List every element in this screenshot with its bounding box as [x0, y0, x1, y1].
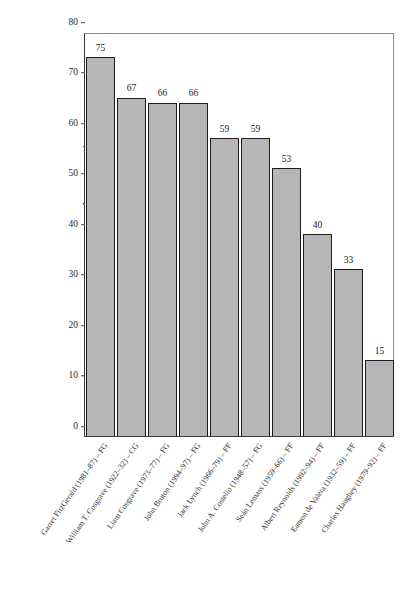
bar[interactable]: [334, 269, 363, 436]
bar[interactable]: [365, 360, 394, 436]
x-axis-category-label: Albert Reynolds (1992–94) – FF: [259, 442, 326, 533]
y-axis-tick-label: 60: [69, 119, 82, 129]
bar-slot: 59: [240, 34, 271, 436]
y-axis-tick: 10: [69, 371, 86, 381]
bar-value-label: 59: [240, 125, 271, 135]
y-axis-tick: 80: [69, 18, 86, 28]
plot-area: 01020304050607080 75676666595953403315: [84, 33, 394, 437]
bar-slot: 75: [85, 34, 116, 436]
x-axis-category-label: Seán Lemass (1959–66) – FF: [234, 442, 295, 524]
bar-slot: 33: [333, 34, 364, 436]
x-axis-category-label: Jack Lynch (1966–79) – FF: [176, 442, 233, 519]
y-axis-tick-label: 40: [69, 220, 82, 230]
bar-slot: 53: [271, 34, 302, 436]
y-axis-tick: 50: [69, 169, 86, 179]
y-axis-tick: 0: [73, 422, 85, 432]
bar-chart: Average rating 01020304050607080 7567666…: [0, 0, 415, 600]
y-axis-tick: 40: [69, 220, 86, 230]
y-axis-tick: 30: [69, 270, 86, 280]
bar[interactable]: [303, 234, 332, 436]
x-axis-category-label: Charles Haughey (1979–92) – FF: [320, 442, 388, 535]
y-axis-tick-label: 0: [73, 422, 81, 432]
bar[interactable]: [86, 57, 115, 436]
bar-value-label: 67: [116, 84, 147, 94]
bar[interactable]: [241, 138, 270, 436]
bar-value-label: 40: [302, 221, 333, 231]
y-axis-tick-label: 10: [69, 371, 82, 381]
x-axis-category-label: Liam Cosgrave (1973–77) – FG: [106, 442, 171, 531]
bar[interactable]: [179, 103, 208, 436]
bar-value-label: 15: [364, 347, 395, 357]
bar[interactable]: [272, 168, 301, 436]
bar-value-label: 66: [178, 89, 209, 99]
x-axis-category-label: John Bruton (1994–97) – FG: [142, 442, 202, 523]
bar-slot: 66: [147, 34, 178, 436]
y-axis-tick-label: 20: [69, 321, 82, 331]
bar[interactable]: [210, 138, 239, 436]
y-axis-tick: 60: [69, 119, 86, 129]
y-axis-tick-label: 50: [69, 169, 82, 179]
bar-slot: 40: [302, 34, 333, 436]
bar-value-label: 75: [85, 44, 116, 54]
y-axis-tick-label: 80: [69, 18, 82, 28]
bar-value-label: 66: [147, 89, 178, 99]
y-axis-tick: 70: [69, 68, 86, 78]
bar-slot: 15: [364, 34, 395, 436]
bar[interactable]: [117, 98, 146, 436]
bar-value-label: 33: [333, 256, 364, 266]
y-axis-tick-label: 70: [69, 68, 82, 78]
bar-slot: 59: [209, 34, 240, 436]
y-axis-tick: 20: [69, 321, 86, 331]
y-axis-tick-label: 30: [69, 270, 82, 280]
bar[interactable]: [148, 103, 177, 436]
bar-slot: 67: [116, 34, 147, 436]
bars-layer: 75676666595953403315: [85, 34, 393, 436]
bar-slot: 66: [178, 34, 209, 436]
bar-value-label: 53: [271, 155, 302, 165]
y-axis-tick-mark: [81, 22, 85, 23]
bar-value-label: 59: [209, 125, 240, 135]
